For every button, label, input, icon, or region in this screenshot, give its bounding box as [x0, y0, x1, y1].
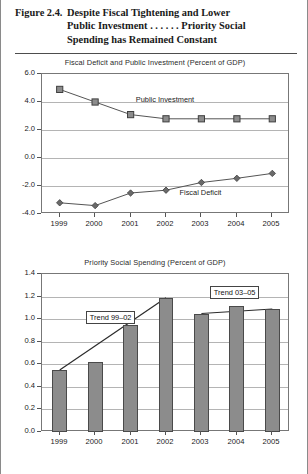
x-tick-mark — [236, 213, 237, 217]
x-axis-label: 2004 — [216, 437, 256, 446]
y-axis-label: -2.0 — [5, 180, 35, 189]
data-point-marker — [269, 170, 275, 176]
x-tick-mark — [130, 213, 131, 217]
data-point-marker — [234, 175, 240, 181]
x-axis-label: 1999 — [39, 219, 79, 228]
y-axis-label: 0.2 — [5, 403, 35, 412]
x-axis-label: 2001 — [110, 437, 150, 446]
caption-line-2: Public Investment . . . . . . Priority S… — [67, 20, 246, 31]
chart1-title: Fiscal Deficit and Public Investment (Pe… — [1, 58, 308, 67]
chart2-title: Priority Social Spending (Percent of GDP… — [1, 258, 308, 267]
x-axis-label: 2001 — [110, 219, 150, 228]
caption-line-3: Spending has Remained Constant — [67, 34, 217, 45]
y-tick-mark — [37, 129, 41, 130]
y-axis-label: 1.2 — [5, 291, 35, 300]
y-axis-label: 2.0 — [5, 124, 35, 133]
x-tick-mark — [130, 431, 131, 435]
y-axis-label: 1.0 — [5, 313, 35, 322]
data-point-marker — [128, 112, 134, 118]
x-axis-label: 2002 — [145, 219, 185, 228]
chart-fiscal-deficit-public-investment: Fiscal Deficit and Public Investment (Pe… — [1, 58, 308, 233]
y-tick-mark — [37, 408, 41, 409]
y-tick-mark — [37, 318, 41, 319]
trend-03-05-label: Trend 03–05 — [210, 286, 260, 299]
y-tick-mark — [37, 363, 41, 364]
data-point-marker — [57, 86, 63, 92]
y-tick-mark — [37, 273, 41, 274]
y-axis-label: 0.4 — [5, 381, 35, 390]
data-point-marker — [92, 202, 98, 208]
caption-line-1: Despite Fiscal Tightening and Lower — [67, 7, 230, 18]
bar-2003 — [194, 314, 209, 433]
x-tick-mark — [59, 213, 60, 217]
data-point-marker — [269, 116, 275, 122]
series-label-fiscal-deficit: Fiscal Deficit — [167, 188, 233, 197]
y-axis-label: 0.0 — [5, 426, 35, 435]
y-tick-mark — [37, 185, 41, 186]
bar-2004 — [229, 306, 244, 432]
data-point-marker — [198, 179, 204, 185]
bar-2001 — [123, 325, 138, 432]
x-axis-label: 2002 — [145, 437, 185, 446]
x-axis-label: 2003 — [180, 219, 220, 228]
y-tick-mark — [37, 213, 41, 214]
y-axis-label: 0.8 — [5, 336, 35, 345]
x-tick-mark — [59, 431, 60, 435]
x-tick-mark — [271, 431, 272, 435]
x-tick-mark — [236, 431, 237, 435]
y-tick-mark — [37, 157, 41, 158]
bar-2002 — [159, 298, 174, 432]
trend-99-02-line — [60, 298, 166, 370]
series-label-public-investment: Public Investment — [132, 95, 198, 104]
x-tick-mark — [200, 431, 201, 435]
x-tick-mark — [165, 213, 166, 217]
data-point-marker — [127, 190, 133, 196]
data-point-marker — [92, 99, 98, 105]
chart-priority-social-spending: Priority Social Spending (Percent of GDP… — [1, 258, 308, 458]
y-axis-label: -4.0 — [5, 208, 35, 217]
x-axis-label: 2005 — [251, 437, 291, 446]
y-axis-label: 0.0 — [5, 152, 35, 161]
x-axis-label: 2000 — [74, 437, 114, 446]
figure-number: Figure 2.4. — [15, 6, 67, 19]
x-tick-mark — [165, 431, 166, 435]
figure-page: Figure 2.4.Despite Fiscal Tightening and… — [0, 0, 308, 474]
x-axis-label: 1999 — [39, 437, 79, 446]
x-axis-label: 2003 — [180, 437, 220, 446]
y-axis-label: 6.0 — [5, 68, 35, 77]
y-tick-mark — [37, 341, 41, 342]
y-axis-label: 0.6 — [5, 358, 35, 367]
x-tick-mark — [94, 213, 95, 217]
bar-2005 — [265, 309, 280, 432]
y-tick-mark — [37, 431, 41, 432]
x-tick-mark — [200, 213, 201, 217]
trend-99-02-label: Trend 99–02 — [86, 311, 136, 324]
x-axis-label: 2000 — [74, 219, 114, 228]
y-tick-mark — [37, 73, 41, 74]
x-axis-label: 2005 — [251, 219, 291, 228]
caption-divider — [15, 53, 297, 54]
x-axis-label: 2004 — [216, 219, 256, 228]
x-tick-mark — [271, 213, 272, 217]
data-point-marker — [57, 200, 63, 206]
x-tick-mark — [94, 431, 95, 435]
data-point-marker — [234, 116, 240, 122]
data-point-marker — [198, 116, 204, 122]
y-axis-label: 4.0 — [5, 96, 35, 105]
y-tick-mark — [37, 101, 41, 102]
y-tick-mark — [37, 386, 41, 387]
figure-caption: Figure 2.4.Despite Fiscal Tightening and… — [15, 6, 297, 46]
bar-1999 — [52, 370, 67, 432]
y-tick-mark — [37, 296, 41, 297]
bar-2000 — [88, 362, 103, 432]
y-axis-label: 1.4 — [5, 268, 35, 277]
data-point-marker — [163, 116, 169, 122]
